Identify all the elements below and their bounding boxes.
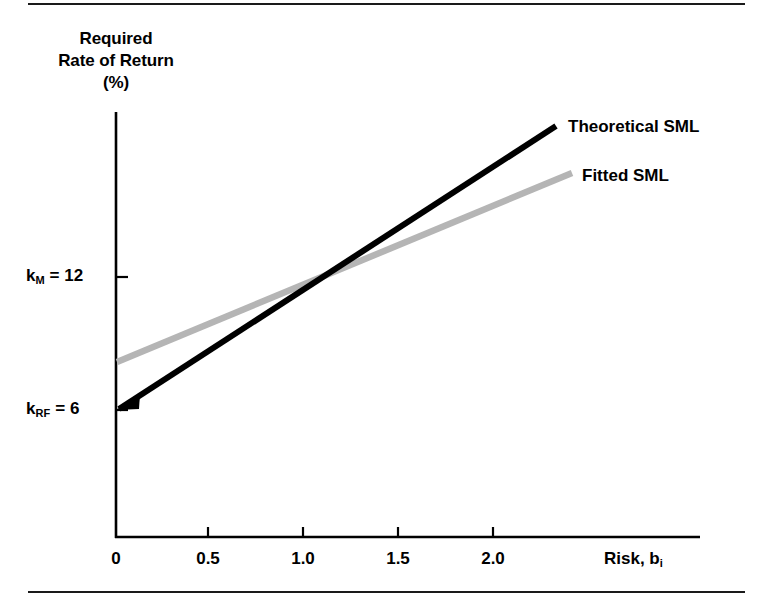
- series-line-theoretical-sml: [119, 126, 556, 409]
- figure-frame: Required Rate of Return (%) kM = 12 kRF …: [0, 0, 763, 615]
- series-line-fitted-sml: [117, 173, 572, 362]
- plot-area: [0, 0, 763, 615]
